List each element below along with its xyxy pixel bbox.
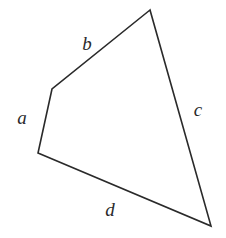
side-label-d: d — [105, 199, 115, 220]
quadrilateral-diagram: a b c d — [0, 0, 226, 238]
quadrilateral-shape — [38, 10, 211, 226]
side-label-c: c — [194, 99, 203, 120]
side-label-a: a — [17, 107, 27, 128]
side-label-b: b — [82, 33, 92, 54]
